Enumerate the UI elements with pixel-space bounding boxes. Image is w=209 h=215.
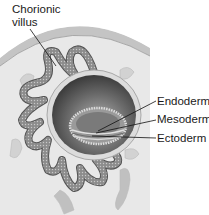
embryo-germ-layers bbox=[70, 108, 126, 144]
label-chorionic-villus: Chorionic villus bbox=[12, 3, 61, 29]
label-chorionic-line2: villus bbox=[12, 16, 61, 29]
label-chorionic-line1: Chorionic bbox=[12, 3, 61, 16]
label-ectoderm: Ectoderm bbox=[157, 132, 206, 145]
label-endoderm: Endoderm bbox=[157, 95, 209, 108]
label-mesoderm: Mesoderm bbox=[157, 113, 209, 126]
